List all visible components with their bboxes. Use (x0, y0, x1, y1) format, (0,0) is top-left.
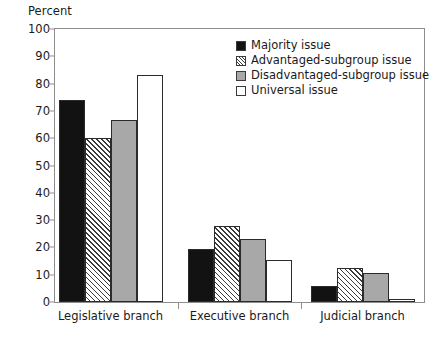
legend-item-disadvantaged-subgroup[interactable]: Disadvantaged-subgroup issue (236, 68, 429, 83)
y-axis-tick-mark (48, 192, 54, 193)
legend-item-universal[interactable]: Universal issue (236, 83, 429, 98)
y-axis-tick-mark (48, 274, 54, 275)
bar-majority (188, 249, 214, 302)
y-axis-tick-mark (48, 56, 54, 57)
y-axis-tick-mark (48, 165, 54, 166)
y-axis-tick-mark (48, 220, 54, 221)
y-axis-tick-mark (48, 302, 54, 303)
bar-universal (137, 75, 163, 302)
legend-swatch-disadvantaged-subgroup (236, 71, 246, 81)
x-axis-tick-mark (178, 303, 179, 309)
legend-swatch-majority (236, 41, 246, 51)
bar-disadvantaged-subgroup (363, 273, 389, 302)
y-axis-tick-label: 10 (10, 268, 50, 282)
bar-universal (389, 299, 415, 302)
y-axis-tick-label: 40 (10, 186, 50, 200)
y-axis-tick-label: 80 (10, 77, 50, 91)
y-axis-tick-label: 100 (10, 22, 50, 36)
legend-swatch-universal (236, 86, 246, 96)
x-axis-tick-mark (301, 303, 302, 309)
bar-disadvantaged-subgroup (111, 120, 137, 302)
x-axis-category-label: Executive branch (190, 309, 290, 323)
y-axis-tick-label: 70 (10, 104, 50, 118)
bar-majority (59, 100, 85, 302)
legend-item-advantaged-subgroup[interactable]: Advantaged-subgroup issue (236, 53, 429, 68)
bar-universal (266, 260, 292, 302)
bar-advantaged-subgroup (337, 268, 363, 302)
y-axis-tick-mark (48, 29, 54, 30)
legend-swatch-advantaged-subgroup (236, 56, 246, 66)
y-axis-tick-label: 50 (10, 159, 50, 173)
x-axis-category-label: Judicial branch (320, 309, 405, 323)
y-axis-tick-mark (48, 247, 54, 248)
bar-chart-figure: Percent 0102030405060708090100 Legislati… (0, 0, 440, 337)
y-axis-tick-mark (48, 110, 54, 111)
y-axis-tick-label: 30 (10, 213, 50, 227)
chart-legend: Majority issueAdvantaged-subgroup issueD… (232, 36, 433, 101)
legend-label: Universal issue (251, 84, 338, 97)
legend-label: Disadvantaged-subgroup issue (251, 69, 429, 82)
legend-label: Majority issue (251, 39, 331, 52)
y-axis-tick-label: 20 (10, 240, 50, 254)
bar-advantaged-subgroup (214, 226, 240, 302)
y-axis-title: Percent (28, 4, 72, 18)
bar-group-1 (59, 29, 163, 302)
y-axis-tick-label: 60 (10, 131, 50, 145)
legend-label: Advantaged-subgroup issue (251, 54, 412, 67)
y-axis-tick-mark (48, 138, 54, 139)
bar-disadvantaged-subgroup (240, 239, 266, 302)
y-axis-tick-label: 90 (10, 49, 50, 63)
y-axis-tick-mark (48, 83, 54, 84)
x-axis-category-label: Legislative branch (58, 309, 163, 323)
y-axis-tick-label: 0 (10, 295, 50, 309)
bar-advantaged-subgroup (85, 138, 111, 302)
legend-item-majority[interactable]: Majority issue (236, 38, 429, 53)
bar-majority (311, 286, 337, 302)
